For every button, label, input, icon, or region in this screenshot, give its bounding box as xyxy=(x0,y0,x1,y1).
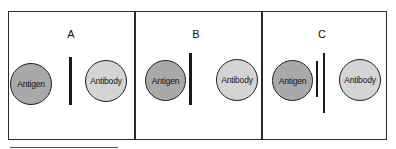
panel-divider-bc xyxy=(261,11,263,140)
antibody-circle-a: Antibody xyxy=(85,60,127,102)
precipitin-line-a xyxy=(69,57,72,105)
precipitin-line-c-thick xyxy=(323,53,325,113)
panel-label-c: C xyxy=(318,28,326,40)
precipitin-line-c-thin xyxy=(316,61,318,97)
panel-label-b: B xyxy=(192,28,199,40)
antigen-circle-a: Antigen xyxy=(10,63,52,105)
antigen-circle-b: Antigen xyxy=(145,60,186,101)
bottom-rule xyxy=(10,147,118,148)
panel-label-a: A xyxy=(67,28,74,40)
antibody-circle-c: Antibody xyxy=(339,59,381,101)
panel-divider-ab xyxy=(134,11,136,140)
antigen-circle-c: Antigen xyxy=(272,60,313,101)
antibody-circle-b: Antibody xyxy=(216,59,258,101)
precipitin-line-b xyxy=(189,53,192,105)
